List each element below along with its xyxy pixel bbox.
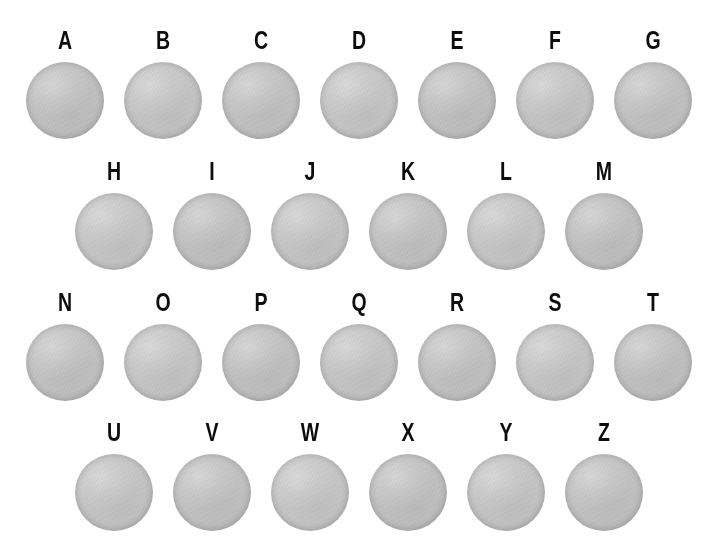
specimen-label: P [223, 290, 299, 315]
specimen-disc[interactable] [173, 454, 251, 531]
specimen-disc[interactable] [614, 62, 692, 139]
specimen-label: E [419, 28, 495, 53]
specimen-disc[interactable] [467, 193, 545, 270]
specimen-label: I [174, 159, 250, 184]
specimen-disc[interactable] [516, 62, 594, 139]
specimen-cell[interactable]: C [212, 28, 310, 139]
specimen-label: D [321, 28, 397, 53]
specimen-label: B [125, 28, 201, 53]
specimen-disc[interactable] [418, 324, 496, 401]
specimen-cell[interactable]: Q [310, 290, 408, 401]
specimen-label: H [76, 159, 152, 184]
specimen-label: V [174, 420, 250, 445]
specimen-disc[interactable] [565, 193, 643, 270]
specimen-disc[interactable] [271, 454, 349, 531]
specimen-cell[interactable]: X [359, 420, 457, 531]
specimen-cell[interactable]: V [163, 420, 261, 531]
specimen-disc[interactable] [26, 62, 104, 139]
specimen-label: O [125, 290, 201, 315]
specimen-cell[interactable]: H [65, 159, 163, 270]
specimen-cell[interactable]: Z [555, 420, 653, 531]
specimen-label: T [615, 290, 691, 315]
specimen-cell[interactable]: F [506, 28, 604, 139]
specimen-disc[interactable] [26, 324, 104, 401]
specimen-disc[interactable] [173, 193, 251, 270]
specimen-disc[interactable] [222, 324, 300, 401]
specimen-label: F [517, 28, 593, 53]
specimen-disc[interactable] [614, 324, 692, 401]
specimen-label: G [615, 28, 691, 53]
specimen-label: M [566, 159, 642, 184]
specimen-disc[interactable] [271, 193, 349, 270]
specimen-disc[interactable] [75, 193, 153, 270]
specimen-disc[interactable] [565, 454, 643, 531]
specimen-label: Q [321, 290, 397, 315]
specimen-disc[interactable] [467, 454, 545, 531]
specimen-disc[interactable] [75, 454, 153, 531]
specimen-disc[interactable] [124, 324, 202, 401]
specimen-label: N [27, 290, 103, 315]
specimen-disc[interactable] [418, 62, 496, 139]
specimen-label: X [370, 420, 446, 445]
specimen-figure-plate: ABCDEFGHIJKLMNOPQRSTUVWXYZ [0, 0, 706, 551]
specimen-label: L [468, 159, 544, 184]
specimen-cell[interactable]: K [359, 159, 457, 270]
specimen-label: J [272, 159, 348, 184]
specimen-disc[interactable] [320, 324, 398, 401]
specimen-disc[interactable] [369, 454, 447, 531]
specimen-disc[interactable] [320, 62, 398, 139]
specimen-cell[interactable]: U [65, 420, 163, 531]
specimen-cell[interactable]: O [114, 290, 212, 401]
specimen-label: Y [468, 420, 544, 445]
specimen-cell[interactable]: N [16, 290, 114, 401]
specimen-disc[interactable] [369, 193, 447, 270]
specimen-cell[interactable]: P [212, 290, 310, 401]
specimen-label: S [517, 290, 593, 315]
specimen-disc[interactable] [124, 62, 202, 139]
specimen-label: Z [566, 420, 642, 445]
specimen-disc[interactable] [222, 62, 300, 139]
specimen-cell[interactable]: R [408, 290, 506, 401]
specimen-cell[interactable]: J [261, 159, 359, 270]
specimen-cell[interactable]: E [408, 28, 506, 139]
specimen-label: K [370, 159, 446, 184]
specimen-label: W [272, 420, 348, 445]
specimen-cell[interactable]: G [604, 28, 702, 139]
specimen-cell[interactable]: T [604, 290, 702, 401]
specimen-label: C [223, 28, 299, 53]
specimen-disc[interactable] [516, 324, 594, 401]
specimen-label: R [419, 290, 495, 315]
specimen-cell[interactable]: S [506, 290, 604, 401]
specimen-cell[interactable]: I [163, 159, 261, 270]
specimen-cell[interactable]: D [310, 28, 408, 139]
specimen-cell[interactable]: A [16, 28, 114, 139]
specimen-label: A [27, 28, 103, 53]
specimen-cell[interactable]: L [457, 159, 555, 270]
specimen-cell[interactable]: W [261, 420, 359, 531]
specimen-label: U [76, 420, 152, 445]
specimen-cell[interactable]: Y [457, 420, 555, 531]
specimen-cell[interactable]: M [555, 159, 653, 270]
specimen-cell[interactable]: B [114, 28, 212, 139]
